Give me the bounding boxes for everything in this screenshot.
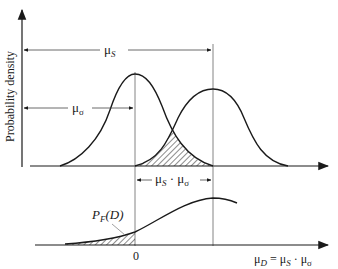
y-axis-label: Probability density xyxy=(3,51,17,142)
stress-curve xyxy=(60,74,213,166)
pf-label: PF(D) xyxy=(91,207,124,224)
zero-tick-label: 0 xyxy=(133,249,139,263)
pf-leader xyxy=(112,224,125,235)
lower-x-axis-label: μD = μS · μσ xyxy=(254,252,312,268)
safety-margin-curve xyxy=(65,198,237,244)
difference-label: μS · μσ xyxy=(155,171,189,188)
mu-s-label: μS xyxy=(104,42,116,59)
mu-sigma-label: μσ xyxy=(72,100,84,117)
interference-diagram: Probability density μS μσ μS · μσ PF(D) … xyxy=(0,0,338,269)
